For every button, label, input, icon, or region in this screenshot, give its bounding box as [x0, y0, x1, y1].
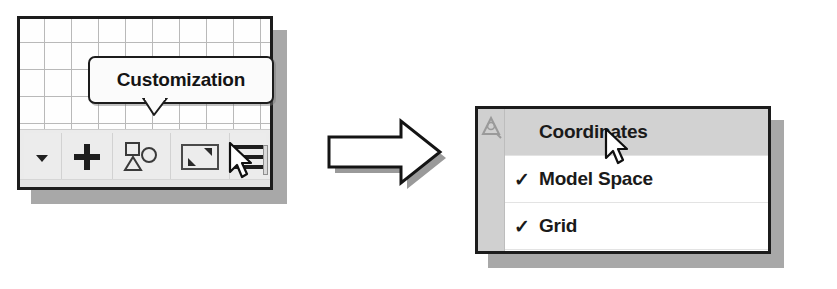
- menu-item-label: Coordinates: [539, 121, 648, 143]
- hamburger-menu-icon: [230, 142, 266, 176]
- dropdown-arrow-button[interactable]: [24, 133, 62, 185]
- menu-item-list: Coordinates ✓ Model Space ✓ Grid: [505, 109, 768, 251]
- flow-arrow: [318, 112, 448, 192]
- menu-item-coordinates[interactable]: Coordinates: [505, 109, 768, 156]
- shapes-button[interactable]: [113, 133, 172, 185]
- chevron-down-icon: [34, 150, 50, 168]
- menu-item-label: Model Space: [539, 168, 653, 190]
- tooltip-callout: Customization: [88, 56, 274, 104]
- zoom-extents-icon: [179, 141, 221, 177]
- menu-item-checkmark: ✓: [505, 217, 539, 236]
- shapes-icon: [121, 140, 161, 178]
- ucs-triangle-icon: [480, 115, 502, 145]
- menu-item-label: Grid: [539, 215, 577, 237]
- menu-item-grid[interactable]: ✓ Grid: [505, 203, 768, 250]
- add-button[interactable]: [62, 133, 113, 185]
- tooltip-label: Customization: [117, 69, 245, 91]
- zoom-extents-button[interactable]: [171, 133, 230, 185]
- customization-menu-button[interactable]: [230, 133, 266, 185]
- panel-bottom-bar: [20, 179, 270, 187]
- scroll-nub[interactable]: [263, 145, 268, 175]
- menu-item-model-space[interactable]: ✓ Model Space: [505, 156, 768, 203]
- menu-gutter: [478, 109, 505, 251]
- customization-menu-panel: Coordinates ✓ Model Space ✓ Grid: [475, 106, 771, 254]
- menu-item-checkmark: ✓: [505, 170, 539, 189]
- plus-icon: [72, 142, 102, 176]
